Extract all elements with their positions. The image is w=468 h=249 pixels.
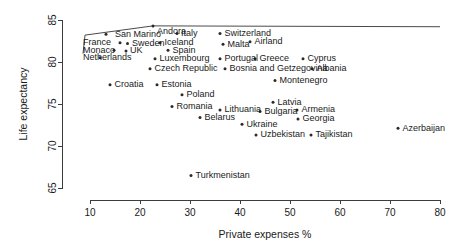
data-point-label: Azerbaijan bbox=[403, 123, 446, 133]
data-point-label: Cyprus bbox=[308, 53, 337, 63]
point-labels-group: San MarinoFranceSwedenMonacoUKNetherland… bbox=[83, 26, 445, 180]
data-point-marker bbox=[241, 123, 244, 126]
data-point-marker bbox=[181, 93, 184, 96]
data-point-label: Romania bbox=[177, 101, 213, 111]
data-point-label: Estonia bbox=[162, 79, 192, 89]
data-point-label: Bosnia and Getzegovina bbox=[230, 63, 328, 73]
data-point-marker bbox=[272, 101, 275, 104]
data-point-marker bbox=[222, 43, 225, 46]
data-point-label: Uzbekistan bbox=[261, 129, 306, 139]
data-point-label: Belarus bbox=[205, 112, 236, 122]
data-point-label: Albania bbox=[317, 63, 347, 73]
x-axis-title: Private expenses % bbox=[219, 228, 312, 240]
data-point-marker bbox=[274, 79, 277, 82]
data-point-label: Ukraine bbox=[247, 119, 278, 129]
data-point-label: Netherlands bbox=[83, 52, 132, 62]
data-point-marker bbox=[171, 105, 174, 108]
x-tick-label: 20 bbox=[134, 207, 146, 218]
data-point-label: Luxembourg bbox=[160, 53, 210, 63]
data-point-marker bbox=[167, 49, 170, 52]
data-point-marker bbox=[109, 83, 112, 86]
data-point-marker bbox=[105, 33, 108, 36]
plot-canvas: 10203040506070806570758085 San MarinoFra… bbox=[0, 0, 468, 249]
x-tick-label: 60 bbox=[334, 207, 346, 218]
data-point-label: Malta bbox=[228, 39, 250, 49]
data-point-label: Bulgaria bbox=[265, 106, 298, 116]
data-point-marker bbox=[119, 41, 122, 44]
data-point-label: UK bbox=[130, 45, 143, 55]
y-tick-label: 70 bbox=[47, 140, 58, 152]
x-tick-label: 80 bbox=[434, 207, 446, 218]
data-point-label: Portugal bbox=[225, 53, 259, 63]
data-point-marker bbox=[149, 67, 152, 70]
data-point-marker bbox=[397, 127, 400, 130]
y-tick-label: 80 bbox=[47, 56, 58, 68]
scatter-plot-figure: 10203040506070806570758085 San MarinoFra… bbox=[0, 0, 468, 249]
data-point-label: Turkmenistan bbox=[196, 170, 250, 180]
axis-titles-group: Private expenses %Life expectancy bbox=[17, 67, 312, 240]
data-point-label: Greece bbox=[260, 53, 290, 63]
data-point-marker bbox=[156, 83, 159, 86]
y-tick-label: 65 bbox=[47, 182, 58, 194]
data-point-marker bbox=[255, 134, 258, 137]
data-point-marker bbox=[154, 57, 157, 60]
data-point-marker bbox=[302, 57, 305, 60]
y-tick-label: 75 bbox=[47, 98, 58, 110]
data-point-label: Poland bbox=[187, 89, 215, 99]
x-axis-line bbox=[90, 200, 440, 204]
y-tick-label: 85 bbox=[47, 14, 58, 26]
data-point-label: Airland bbox=[255, 36, 283, 46]
x-tick-label: 10 bbox=[84, 207, 96, 218]
data-point-label: Tajikistan bbox=[316, 129, 353, 139]
data-point-marker bbox=[199, 116, 202, 119]
x-tick-label: 40 bbox=[234, 207, 246, 218]
x-tick-label: 30 bbox=[184, 207, 196, 218]
data-point-marker bbox=[190, 174, 193, 177]
x-tick-label: 70 bbox=[384, 207, 396, 218]
data-point-label: Croatia bbox=[115, 79, 144, 89]
data-point-marker bbox=[126, 42, 129, 45]
data-point-label: Georgia bbox=[303, 113, 335, 123]
data-point-label: Montenegro bbox=[280, 75, 328, 85]
data-point-marker bbox=[152, 24, 155, 27]
data-point-marker bbox=[219, 57, 222, 60]
data-point-marker bbox=[224, 67, 227, 70]
data-point-marker bbox=[310, 134, 313, 137]
data-point-marker bbox=[297, 118, 300, 121]
data-point-label: Czech Republic bbox=[155, 63, 219, 73]
y-axis-title: Life expectancy bbox=[17, 67, 29, 141]
data-point-marker bbox=[219, 32, 222, 35]
x-tick-label: 50 bbox=[284, 207, 296, 218]
